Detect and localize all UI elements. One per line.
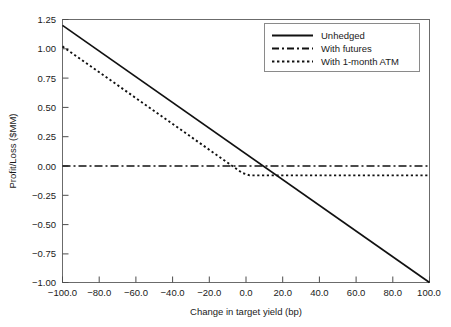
x-tick-label-7: 40.0 [310,287,329,298]
y-tick-label-5: 0.00 [38,161,57,172]
x-axis-title: Change in target yield (bp) [190,306,302,317]
y-tick-label-1: 1.00 [38,43,57,54]
y-tick-label-2: 0.75 [38,73,57,84]
y-axis-title: Profit/Loss ($MM) [7,114,18,189]
y-tick-label-4: 0.25 [38,131,57,142]
y-tick-label-6: −0.25 [32,190,56,201]
chart-svg: 1.25 1.00 0.75 0.50 0.25 0.00 −0.25 −0.5… [0,0,451,327]
x-tick-label-3: −40.0 [161,287,185,298]
x-tick-label-10: 100.0 [417,287,441,298]
legend-label-unhedged: Unhedged [321,30,365,41]
y-tick-label-7: −0.50 [32,219,56,230]
legend-label-with-1month-atm: With 1-month ATM [321,56,399,67]
x-tick-label-6: 20.0 [273,287,292,298]
x-tick-label-0: −100.0 [48,287,77,298]
y-tick-label-0: 1.25 [38,14,57,25]
chart-legend: Unhedged With futures With 1-month ATM [265,24,420,72]
x-tick-label-4: −20.0 [197,287,221,298]
x-tick-label-8: 60.0 [347,287,366,298]
x-tick-label-1: −80.0 [87,287,111,298]
x-tick-label-2: −60.0 [124,287,148,298]
x-tick-label-5: 0.0 [239,287,252,298]
chart-figure: 1.25 1.00 0.75 0.50 0.25 0.00 −0.25 −0.5… [0,0,451,327]
y-tick-label-3: 0.50 [38,102,57,113]
legend-label-with-futures: With futures [321,43,372,54]
x-tick-label-9: 80.0 [384,287,403,298]
y-tick-label-8: −0.75 [32,248,56,259]
